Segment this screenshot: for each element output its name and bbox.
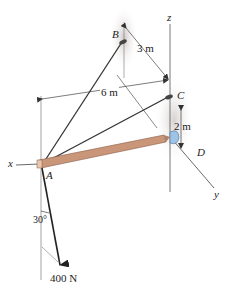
point-label-c: C [177, 90, 184, 101]
dimension-label-2m: 2 m [174, 121, 191, 132]
force-label: 400 N [50, 273, 77, 284]
ball-socket-d [170, 131, 179, 144]
angle-label: 30° [33, 215, 47, 225]
angle-arc [41, 211, 49, 213]
force-leader [42, 247, 58, 262]
x-axis [16, 164, 40, 165]
point-label-b: B [112, 29, 119, 40]
cable-ab [44, 42, 122, 162]
point-label-d: D [197, 147, 205, 158]
dimension-label-3m: 3 m [137, 43, 154, 54]
axis-label-x: x [8, 158, 13, 169]
dimension-label-6m: 6 m [100, 87, 119, 98]
axis-label-y: y [214, 189, 219, 200]
axis-label-z: z [167, 12, 171, 23]
guide-line-bd [117, 75, 157, 128]
point-label-a: A [46, 170, 53, 181]
rod-end-a [37, 160, 42, 168]
